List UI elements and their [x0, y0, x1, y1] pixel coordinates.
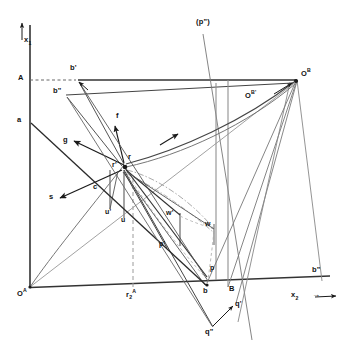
dashed-curve-r-to-p-outer [126, 172, 206, 278]
curve-r-to-OB-with-arrow [126, 82, 294, 164]
label-b-double-prime-right: b" [312, 266, 321, 274]
label-p: p [210, 264, 214, 271]
curve-OA-through-c-to-r [30, 165, 124, 287]
label-w: w [205, 220, 211, 227]
ray-r-to-qdoubleprime [124, 170, 213, 327]
dot-OB [294, 79, 298, 83]
ray-r-to-bdoubleprime [67, 97, 122, 166]
y-tick-label-A: A [18, 74, 24, 82]
x-axis-arrow-glyph: → [312, 291, 320, 299]
label-q-prime: q' [235, 300, 242, 308]
curve-r-to-OB-second [126, 84, 295, 167]
label-r: r [128, 153, 131, 161]
label-O-B: OB [301, 68, 311, 77]
label-p-double-prime-line: (p") [196, 18, 210, 26]
secondary-top-edge [66, 83, 293, 95]
origin-label: OA [17, 288, 27, 297]
ray-r-to-s [60, 170, 122, 198]
diagram-canvas: x1 x2 A OA r2A (p") OB OB' b' b" a f g r… [0, 0, 351, 348]
x-tick-label-r2A: r2A [126, 289, 136, 300]
label-s: s [49, 193, 53, 201]
segment-bprime-to-b [79, 82, 208, 281]
arrow-to-qprime [213, 306, 233, 326]
label-b-double-prime: b" [53, 87, 62, 95]
price-line-OB-to-bdp [297, 80, 322, 281]
label-f: f [116, 112, 119, 120]
label-O-B-prime: OB' [245, 90, 256, 99]
segment-a-to-b [31, 123, 206, 285]
vertical-OB-drop [238, 82, 290, 322]
label-r-prime: r' [112, 161, 117, 168]
label-u: u [121, 216, 125, 223]
label-q-double-prime: q" [205, 328, 214, 336]
dashed-curve-w-to-b [208, 231, 214, 280]
label-g: g [63, 136, 68, 144]
label-a: a [17, 116, 21, 124]
arrow-on-r-OB-curve [160, 134, 178, 145]
dot-OA [28, 285, 31, 288]
x-axis-label: x2 [291, 291, 298, 301]
label-w-prime: w' [166, 209, 174, 216]
label-c: c [93, 183, 97, 191]
label-u-prime: u' [105, 208, 111, 215]
ray-r-to-b [123, 172, 205, 285]
dot-r [123, 165, 128, 170]
x-axis [30, 276, 330, 288]
label-p-prime: p' [159, 240, 165, 247]
label-b-prime: b' [70, 64, 77, 72]
y-axis-label: x1 [24, 36, 31, 46]
vertical-drops-group [110, 80, 290, 322]
label-b: b [203, 287, 208, 295]
segment-bdoubleprime-to-qdp [67, 97, 212, 326]
label-B: B [229, 285, 235, 293]
